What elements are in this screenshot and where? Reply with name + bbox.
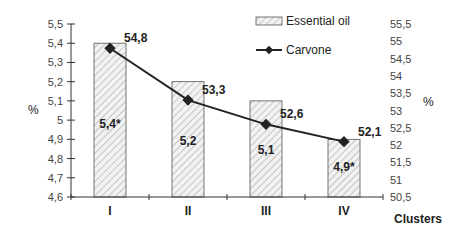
chart: 4,64,74,84,955,15,25,35,45,5 50,55151,55…	[0, 0, 450, 234]
left-tick-label: 4,9	[48, 133, 63, 145]
left-tick-label: 5,3	[48, 56, 63, 68]
bar-value-label: 4,9*	[333, 160, 355, 174]
bar-value-label: 5,4*	[99, 117, 121, 131]
right-tick-label: 55,5	[390, 18, 411, 30]
left-tick-label: 5,4	[48, 37, 63, 49]
line-value-label: 54,8	[124, 31, 148, 45]
line-value-label: 52,1	[358, 125, 382, 139]
category-label: II	[185, 204, 192, 218]
left-axis-label: %	[28, 103, 39, 117]
right-tick-label: 50,5	[390, 191, 411, 203]
category-label: I	[108, 204, 111, 218]
right-tick-label: 53	[390, 105, 402, 117]
right-tick-label: 51,5	[390, 156, 411, 168]
legend-swatch-line	[265, 46, 273, 54]
left-tick-label: 5,1	[48, 95, 63, 107]
line-series-carvone: 54,853,352,652,1	[104, 31, 381, 147]
bar-series-essential-oil: 5,4*5,25,14,9*	[94, 43, 360, 197]
left-tick-label: 4,8	[48, 153, 63, 165]
bar-value-label: 5,1	[258, 143, 275, 157]
right-tick-label: 51	[390, 174, 402, 186]
left-tick-label: 5	[57, 114, 63, 126]
legend: Essential oilCarvone	[256, 14, 350, 57]
right-tick-label: 54	[390, 70, 402, 82]
line-value-label: 53,3	[202, 83, 226, 97]
left-y-axis: 4,64,74,84,955,15,25,35,45,5	[48, 18, 75, 203]
x-axis: IIIIIIIV	[71, 194, 383, 218]
right-tick-label: 52,5	[390, 122, 411, 134]
right-tick-label: 55	[390, 35, 402, 47]
right-tick-label: 53,5	[390, 87, 411, 99]
right-tick-label: 52	[390, 139, 402, 151]
right-axis-label: %	[423, 95, 434, 109]
bar-value-label: 5,2	[180, 134, 197, 148]
left-tick-label: 4,6	[48, 191, 63, 203]
legend-label: Essential oil	[286, 14, 350, 28]
right-tick-label: 54,5	[390, 53, 411, 65]
left-tick-label: 4,7	[48, 172, 63, 184]
left-tick-label: 5,5	[48, 18, 63, 30]
category-label: IV	[338, 204, 349, 218]
right-y-axis: 50,55151,55252,55353,55454,55555,5	[390, 18, 411, 203]
legend-label: Carvone	[286, 43, 332, 57]
category-label: III	[261, 204, 271, 218]
left-tick-label: 5,2	[48, 76, 63, 88]
x-axis-label: Clusters	[394, 212, 442, 226]
legend-swatch-bar	[256, 17, 282, 25]
line-value-label: 52,6	[280, 107, 304, 121]
